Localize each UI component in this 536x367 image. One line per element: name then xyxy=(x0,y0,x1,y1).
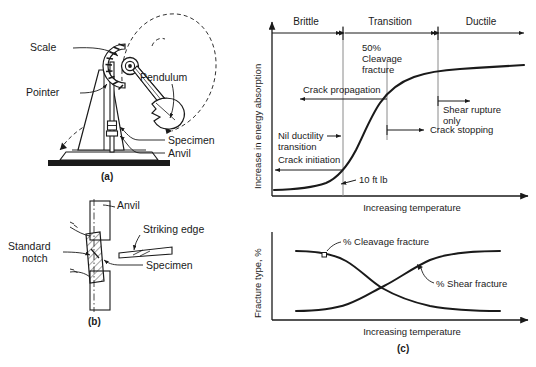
label-scale: Scale xyxy=(30,41,56,53)
cleavage-marker xyxy=(322,253,327,258)
label-specimen-a: Specimen xyxy=(168,134,215,146)
figure-svg: Scale Pointer Pendulum Specimen Anvil (a… xyxy=(0,0,536,367)
annot-crack-propagation: Crack propagation xyxy=(303,84,381,95)
annot-ten-ft-lb: 10 ft lb xyxy=(359,174,388,185)
anvil-block xyxy=(107,131,118,136)
pendulum-hammer xyxy=(152,98,184,129)
annot-cleavage-fracture: % Cleavage fracture xyxy=(343,236,429,247)
fracture-x-axis-label: Increasing temperature xyxy=(363,326,461,337)
annot-fifty-percent-line3: fracture xyxy=(362,64,394,75)
panel-a-label: (a) xyxy=(101,171,113,182)
panel-c-label: (c) xyxy=(397,343,409,354)
label-specimen-b: Specimen xyxy=(146,259,193,271)
annot-crack-stopping: Crack stopping xyxy=(430,124,493,135)
label-anvil-a: Anvil xyxy=(168,147,191,159)
energy-x-axis-label: Increasing temperature xyxy=(363,202,461,213)
region-label-brittle: Brittle xyxy=(293,16,319,27)
fracture-y-axis-label: Fracture type, % xyxy=(252,248,263,318)
label-standard-notch-2: notch xyxy=(22,252,48,264)
region-label-transition: Transition xyxy=(368,16,412,27)
figure-root: Scale Pointer Pendulum Specimen Anvil (a… xyxy=(0,0,536,367)
label-standard-notch-1: Standard xyxy=(8,240,51,252)
annot-shear-rupture-line1: Shear rupture xyxy=(443,104,501,115)
annot-nil-ductility-line1: Nil ductility xyxy=(278,130,324,141)
panel-b-label: (b) xyxy=(88,316,101,327)
label-pointer: Pointer xyxy=(26,86,60,98)
annot-shear-fracture: % Shear fracture xyxy=(436,278,507,289)
annot-fifty-percent-line2: Cleavage xyxy=(362,53,402,64)
label-striking-edge: Striking edge xyxy=(143,223,204,235)
annot-fifty-percent-line1: 50% xyxy=(362,42,382,53)
machine-base xyxy=(48,150,170,166)
region-label-ductile: Ductile xyxy=(466,16,497,27)
label-pendulum: Pendulum xyxy=(140,71,188,83)
annot-nil-ductility-line2: transition xyxy=(278,141,317,152)
annot-crack-initiation: Crack initiation xyxy=(278,154,340,165)
label-anvil-b: Anvil xyxy=(117,199,140,211)
pivot-center xyxy=(128,64,132,68)
energy-y-axis-label: Increase in energy absorption xyxy=(252,64,263,189)
